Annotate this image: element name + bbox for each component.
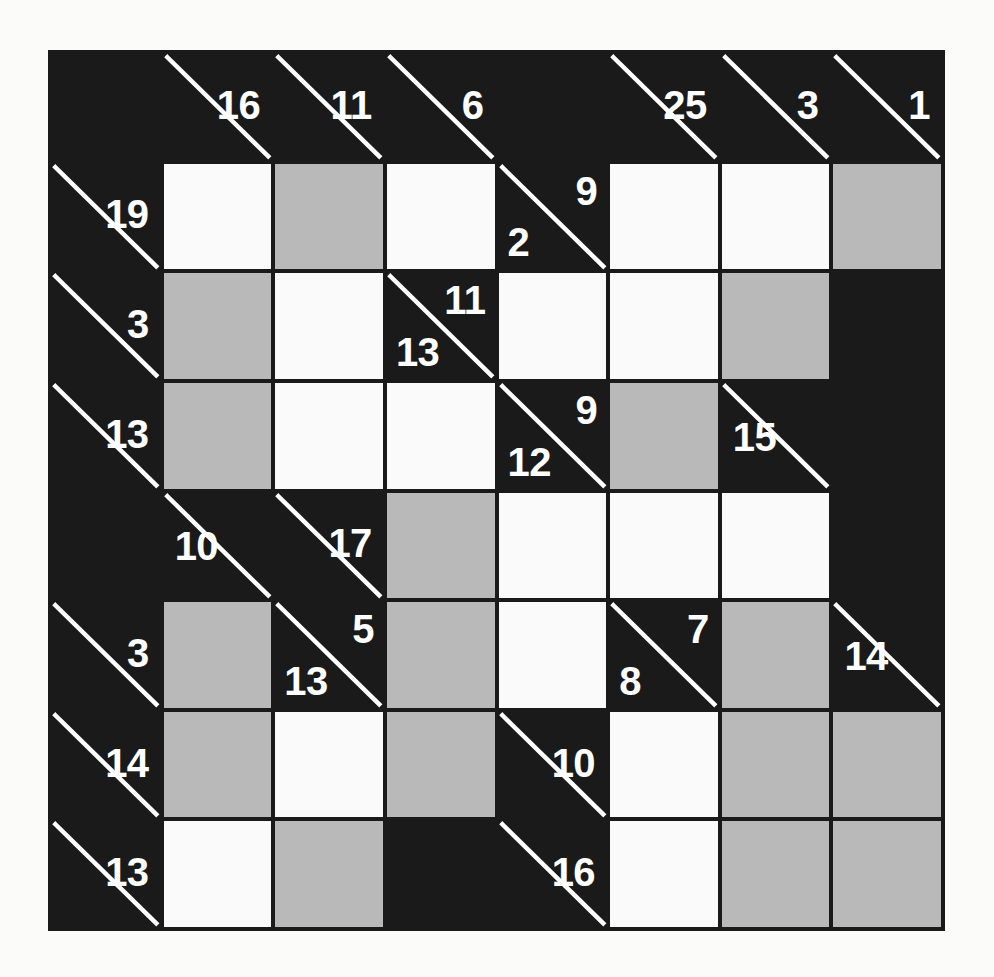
clue-cell-r4c1: 10 — [162, 491, 274, 601]
answer-cell-shaded-r1c7[interactable] — [831, 162, 943, 272]
answer-cell-r1c6[interactable] — [720, 162, 832, 272]
clue-across-sum-r7c4: 16 — [552, 853, 596, 893]
clue-cell-r3c4: 912 — [497, 381, 609, 491]
answer-cell-r1c3[interactable] — [385, 162, 497, 272]
clue-down-sum-r3c4: 12 — [508, 442, 552, 482]
clue-down-sum-r3c6: 15 — [733, 416, 777, 456]
answer-cell-r3c3[interactable] — [385, 381, 497, 491]
answer-cell-shaded-r3c5[interactable] — [608, 381, 720, 491]
clue-across-sum-r4c2: 17 — [328, 524, 372, 564]
clue-across-sum-r5c0: 3 — [127, 633, 149, 673]
kakuro-grid: 1611625311992311131391215101735137814141… — [48, 50, 945, 931]
answer-cell-shaded-r6c1[interactable] — [162, 710, 274, 820]
clue-across-sum-r2c0: 3 — [127, 304, 149, 344]
clue-cell-r6c4: 10 — [497, 710, 609, 820]
clue-cell-r4c2: 17 — [273, 491, 385, 601]
answer-cell-shaded-r5c6[interactable] — [720, 600, 832, 710]
clue-across-sum-r3c0: 13 — [105, 414, 149, 454]
answer-cell-r5c4[interactable] — [497, 600, 609, 710]
answer-cell-r2c4[interactable] — [497, 271, 609, 381]
answer-cell-shaded-r5c3[interactable] — [385, 600, 497, 710]
answer-cell-shaded-r2c6[interactable] — [720, 271, 832, 381]
answer-cell-r1c5[interactable] — [608, 162, 720, 272]
clue-cell-r1c0: 19 — [50, 162, 162, 272]
clue-across-sum-r2c3: 11 — [444, 280, 485, 320]
clue-cell-r5c5: 78 — [608, 600, 720, 710]
answer-cell-r2c2[interactable] — [273, 271, 385, 381]
clue-across-sum-r0c5: 25 — [663, 85, 707, 125]
clue-cell-r7c0: 13 — [50, 819, 162, 929]
clue-across-sum-r1c0: 19 — [105, 195, 149, 235]
answer-cell-shaded-r5c1[interactable] — [162, 600, 274, 710]
blank-cell-r0c0 — [50, 52, 162, 162]
clue-down-sum-r1c4: 2 — [508, 222, 530, 262]
clue-across-sum-r0c6: 3 — [797, 85, 819, 125]
answer-cell-shaded-r7c7[interactable] — [831, 819, 943, 929]
blank-cell-r3c7 — [831, 381, 943, 491]
answer-cell-shaded-r6c6[interactable] — [720, 710, 832, 820]
clue-across-sum-r0c7: 1 — [908, 85, 930, 125]
clue-across-sum-r0c1: 16 — [217, 85, 261, 125]
clue-cell-r1c4: 92 — [497, 162, 609, 272]
clue-cell-r0c7: 1 — [831, 52, 943, 162]
clue-down-sum-r5c2: 13 — [284, 661, 328, 701]
clue-across-sum-r7c0: 13 — [105, 853, 149, 893]
clue-cell-r2c3: 1113 — [385, 271, 497, 381]
blank-cell-r4c0 — [50, 491, 162, 601]
blank-cell-r7c3 — [385, 819, 497, 929]
answer-cell-shaded-r7c6[interactable] — [720, 819, 832, 929]
answer-cell-shaded-r3c1[interactable] — [162, 381, 274, 491]
blank-cell-r0c4 — [497, 52, 609, 162]
clue-down-sum-r5c7: 14 — [844, 636, 888, 676]
clue-cell-r0c6: 3 — [720, 52, 832, 162]
clue-cell-r6c0: 14 — [50, 710, 162, 820]
clue-cell-r0c3: 6 — [385, 52, 497, 162]
answer-cell-r4c5[interactable] — [608, 491, 720, 601]
blank-cell-r4c7 — [831, 491, 943, 601]
answer-cell-r4c4[interactable] — [497, 491, 609, 601]
clue-down-sum-r4c1: 10 — [175, 526, 219, 566]
answer-cell-r4c6[interactable] — [720, 491, 832, 601]
answer-cell-shaded-r6c7[interactable] — [831, 710, 943, 820]
answer-cell-r6c5[interactable] — [608, 710, 720, 820]
clue-cell-r7c4: 16 — [497, 819, 609, 929]
clue-across-sum-r5c5: 7 — [687, 609, 709, 649]
clue-cell-r5c0: 3 — [50, 600, 162, 710]
answer-cell-r1c1[interactable] — [162, 162, 274, 272]
answer-cell-shaded-r2c1[interactable] — [162, 271, 274, 381]
clue-down-sum-r2c3: 13 — [396, 332, 440, 372]
clue-across-sum-r6c4: 10 — [552, 743, 596, 783]
clue-down-sum-r5c5: 8 — [619, 661, 641, 701]
clue-cell-r0c1: 16 — [162, 52, 274, 162]
clue-across-sum-r3c4: 9 — [575, 390, 597, 430]
clue-across-sum-r5c2: 5 — [352, 609, 374, 649]
answer-cell-shaded-r7c2[interactable] — [273, 819, 385, 929]
answer-cell-r6c2[interactable] — [273, 710, 385, 820]
clue-cell-r3c6: 15 — [720, 381, 832, 491]
clue-across-sum-r0c2: 11 — [331, 85, 372, 125]
clue-across-sum-r0c3: 6 — [462, 85, 484, 125]
answer-cell-shaded-r6c3[interactable] — [385, 710, 497, 820]
answer-cell-r7c5[interactable] — [608, 819, 720, 929]
clue-cell-r0c2: 11 — [273, 52, 385, 162]
clue-cell-r3c0: 13 — [50, 381, 162, 491]
clue-cell-r5c7: 14 — [831, 600, 943, 710]
blank-cell-r2c7 — [831, 271, 943, 381]
clue-across-sum-r6c0: 14 — [105, 743, 149, 783]
answer-cell-r3c2[interactable] — [273, 381, 385, 491]
clue-across-sum-r1c4: 9 — [575, 171, 597, 211]
clue-cell-r2c0: 3 — [50, 271, 162, 381]
answer-cell-shaded-r4c3[interactable] — [385, 491, 497, 601]
answer-cell-r2c5[interactable] — [608, 271, 720, 381]
answer-cell-shaded-r1c2[interactable] — [273, 162, 385, 272]
answer-cell-r7c1[interactable] — [162, 819, 274, 929]
clue-cell-r0c5: 25 — [608, 52, 720, 162]
clue-cell-r5c2: 513 — [273, 600, 385, 710]
